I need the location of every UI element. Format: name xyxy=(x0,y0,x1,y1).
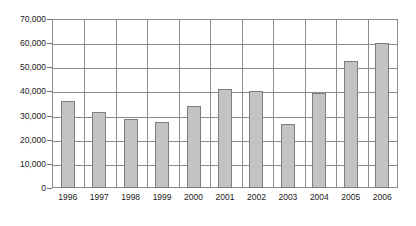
x-axis-tick-label: 2005 xyxy=(335,193,366,202)
y-axis-tick-label: 30,000 xyxy=(2,112,46,121)
bar xyxy=(375,43,389,188)
y-axis-tick-label: 70,000 xyxy=(2,15,46,24)
y-axis-tick-label: 0 xyxy=(2,184,46,193)
bar xyxy=(344,61,358,188)
x-axis-tick-label: 2004 xyxy=(304,193,335,202)
bar xyxy=(281,124,295,188)
x-axis-tick-label: 1999 xyxy=(146,193,177,202)
y-axis-tick-mark xyxy=(47,188,52,189)
bar xyxy=(218,89,232,188)
y-axis-tick-label: 20,000 xyxy=(2,136,46,145)
bar xyxy=(187,106,201,188)
x-axis-tick-label: 2001 xyxy=(209,193,240,202)
x-axis-tick-label: 2006 xyxy=(367,193,398,202)
bar xyxy=(61,101,75,188)
bar xyxy=(155,122,169,188)
bar xyxy=(124,119,138,188)
x-axis: 1996199719981999200020012002200320042005… xyxy=(52,193,398,213)
x-axis-tick-label: 2002 xyxy=(241,193,272,202)
x-axis-tick-label: 2003 xyxy=(272,193,303,202)
bar xyxy=(92,112,106,188)
y-axis-tick-label: 50,000 xyxy=(2,63,46,72)
x-axis-tick-label: 2000 xyxy=(178,193,209,202)
bars-layer xyxy=(52,19,398,188)
x-axis-tick-label: 1997 xyxy=(83,193,114,202)
bar xyxy=(249,91,263,188)
y-axis-tick-label: 10,000 xyxy=(2,160,46,169)
x-axis-tick-label: 1998 xyxy=(115,193,146,202)
x-axis-tick-label: 1996 xyxy=(52,193,83,202)
y-axis-tick-label: 40,000 xyxy=(2,87,46,96)
y-axis-tick-label: 60,000 xyxy=(2,39,46,48)
bar-chart: 010,00020,00030,00040,00050,00060,00070,… xyxy=(0,0,416,226)
bar xyxy=(312,93,326,188)
